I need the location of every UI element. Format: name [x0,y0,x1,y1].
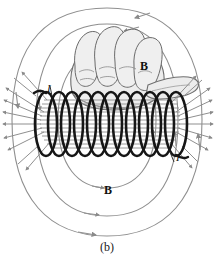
current-label-right: I [176,152,180,163]
magnetic-field-label-lower: B [104,184,112,196]
current-label-left: I [47,83,51,94]
magnetic-field-label-upper: B [140,60,148,72]
solenoid-right-hand-rule-figure: B B I I (b) [0,0,214,261]
solenoid-field-diagram [0,0,214,261]
figure-caption: (b) [0,241,214,253]
